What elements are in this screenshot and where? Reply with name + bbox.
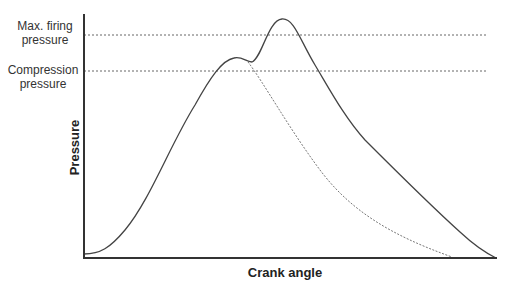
compression-label-line1: Compression (4, 63, 82, 77)
max-firing-label-line2: pressure (10, 33, 80, 47)
max-firing-label: Max. firing pressure (10, 19, 80, 47)
x-axis-title: Crank angle (230, 265, 340, 280)
compression-label: Compression pressure (4, 63, 82, 91)
firing-curve (84, 19, 496, 258)
compression-label-line2: pressure (4, 77, 82, 91)
max-firing-label-line1: Max. firing (10, 19, 80, 33)
compression-curve (248, 62, 452, 257)
y-axis-title: Pressure (67, 116, 82, 180)
